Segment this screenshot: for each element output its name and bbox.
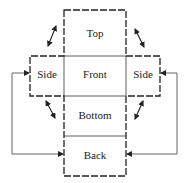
fold-arrow-top-right-icon — [135, 29, 144, 47]
face-back-label: Back — [84, 149, 107, 161]
connector-right-side-to-back — [127, 73, 177, 154]
face-side-left-label: Side — [37, 68, 57, 80]
face-bottom-label: Bottom — [78, 109, 111, 121]
fold-arrow-bottom-left-icon — [46, 101, 55, 118]
fold-arrow-bottom-right-icon — [135, 101, 143, 119]
connector-left-side-to-back — [12, 73, 63, 154]
fold-arrow-top-left-icon — [48, 26, 56, 46]
cube-net-diagram: Top Side Front Side Bottom Back — [0, 0, 187, 183]
face-top-label: Top — [87, 27, 104, 39]
face-front-label: Front — [83, 68, 107, 80]
face-side-right-label: Side — [133, 68, 153, 80]
